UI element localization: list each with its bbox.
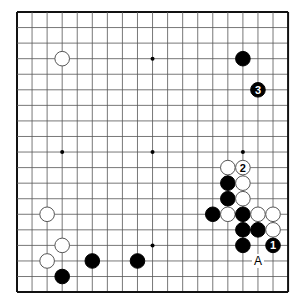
stone-body	[236, 176, 251, 191]
stone-body	[221, 176, 236, 191]
go-board: A 321	[0, 0, 302, 305]
white-stone	[236, 176, 251, 191]
star-point	[151, 150, 155, 154]
white-stone	[40, 254, 55, 269]
move-number: 2	[240, 162, 246, 174]
black-stone	[236, 51, 251, 66]
black-stone-1: 1	[266, 238, 281, 253]
star-point	[151, 243, 155, 247]
stone-body	[55, 238, 70, 253]
stone-body	[221, 207, 236, 222]
stone-body	[40, 207, 55, 222]
black-stone	[236, 223, 251, 238]
white-stone	[55, 238, 70, 253]
stone-body	[55, 269, 70, 284]
white-stone	[221, 160, 236, 175]
stone-body	[236, 191, 251, 206]
stone-body	[236, 223, 251, 238]
star-point	[151, 57, 155, 61]
board-markers: A	[252, 254, 264, 268]
stone-body	[85, 254, 100, 269]
black-stone	[55, 269, 70, 284]
stone-body	[251, 223, 266, 238]
move-number: 1	[270, 239, 276, 251]
black-stone	[130, 254, 145, 269]
point-label-a: A	[254, 254, 262, 268]
stone-body	[266, 207, 281, 222]
white-stone	[251, 207, 266, 222]
stone-body	[55, 51, 70, 66]
stone-body	[236, 51, 251, 66]
black-stone	[221, 191, 236, 206]
stone-body	[205, 207, 220, 222]
move-number: 3	[255, 84, 261, 96]
black-stone	[251, 223, 266, 238]
black-stone-3: 3	[251, 83, 266, 98]
white-stone	[55, 51, 70, 66]
black-stone	[221, 176, 236, 191]
white-stone	[266, 223, 281, 238]
white-stone	[221, 207, 236, 222]
star-point	[60, 150, 64, 154]
black-stone	[236, 207, 251, 222]
star-point	[241, 150, 245, 154]
stone-body	[251, 207, 266, 222]
black-stone	[85, 254, 100, 269]
white-stone	[40, 207, 55, 222]
white-stone-2: 2	[236, 160, 251, 175]
white-stone	[236, 191, 251, 206]
stone-body	[40, 254, 55, 269]
stone-body	[236, 238, 251, 253]
stone-body	[221, 160, 236, 175]
black-stone	[236, 238, 251, 253]
white-stone	[266, 207, 281, 222]
stone-body	[266, 223, 281, 238]
black-stone	[205, 207, 220, 222]
stone-body	[130, 254, 145, 269]
stone-body	[236, 207, 251, 222]
stone-body	[221, 191, 236, 206]
